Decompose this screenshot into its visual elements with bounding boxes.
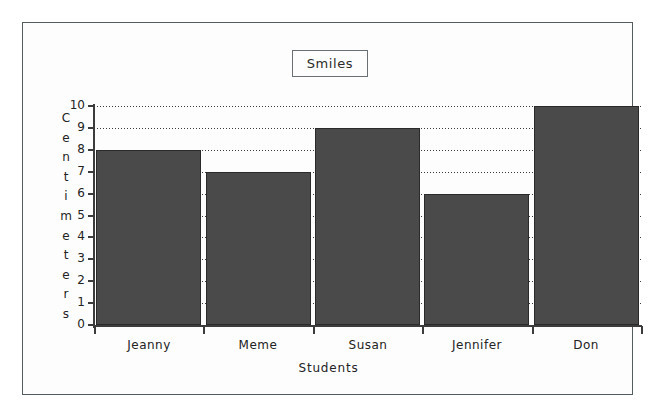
x-axis-title: Students	[23, 361, 634, 375]
y-axis-tick-label: 3	[61, 252, 85, 264]
x-axis-category-label: Jeanny	[89, 338, 209, 352]
plot-area	[94, 106, 641, 325]
chart-title: Smiles	[307, 56, 354, 71]
bar	[315, 128, 420, 325]
y-axis-tick-label: 6	[61, 187, 85, 199]
x-axis-tick	[313, 326, 315, 334]
bar	[534, 106, 639, 325]
x-axis-tick	[94, 326, 96, 334]
x-axis-tick	[641, 326, 643, 334]
y-axis-tick-label: 7	[61, 165, 85, 177]
y-axis-tick-label: 9	[61, 121, 85, 133]
y-axis-tick-label: 0	[61, 318, 85, 330]
x-axis-category-label: Don	[526, 338, 646, 352]
y-axis-tick-label: 4	[61, 230, 85, 242]
x-axis-line	[93, 325, 642, 327]
y-axis-tick-label: 10	[61, 99, 85, 111]
y-axis-tick-label: 8	[61, 143, 85, 155]
bar	[96, 150, 201, 325]
x-axis-category-label: Jennifer	[417, 338, 537, 352]
x-axis-tick	[422, 326, 424, 334]
bar	[206, 172, 311, 325]
x-axis-tick	[532, 326, 534, 334]
bar	[424, 194, 529, 325]
chart-title-box: Smiles	[292, 50, 368, 77]
chart-frame: Smiles Centimeters 109876543210 JeannyMe…	[22, 22, 633, 395]
y-axis-tick-label: 1	[61, 296, 85, 308]
x-axis-tick	[203, 326, 205, 334]
y-axis-tick-label: 2	[61, 274, 85, 286]
x-axis-category-label: Meme	[198, 338, 318, 352]
y-axis-tick-label: 5	[61, 209, 85, 221]
x-axis-category-label: Susan	[308, 338, 428, 352]
